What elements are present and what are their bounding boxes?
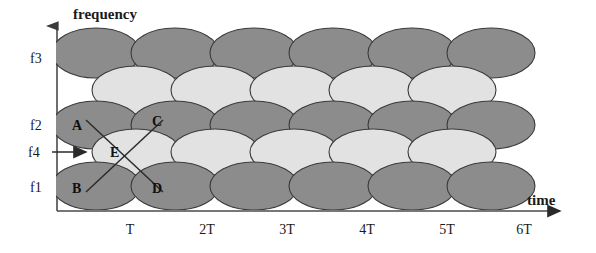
ellipse-grid [52, 28, 535, 210]
cell-label-B: B [72, 181, 81, 196]
cell-label-A: A [72, 118, 83, 133]
figure-canvas: A C E B D f3 f2 f4 f1 T 2T 3T 4T 5T 6T f… [0, 0, 596, 253]
cell-label-C: C [152, 114, 162, 129]
y-tick-f4: f4 [28, 145, 40, 160]
cell-f1-5 [368, 162, 456, 210]
x-tick-5: 5T [439, 222, 455, 237]
y-tick-f2: f2 [30, 118, 42, 133]
x-tick-2: 2T [199, 222, 215, 237]
frequency-axis-label: frequency [73, 6, 137, 22]
time-axis-label: time [527, 192, 556, 208]
y-tick-f3: f3 [30, 51, 42, 66]
cell-f1-6 [447, 162, 535, 210]
cell-f1-4 [289, 162, 377, 210]
x-tick-1: T [126, 222, 135, 237]
cell-label-E: E [110, 145, 119, 160]
cell-f1-2 [131, 162, 219, 210]
cell-f1-1 [52, 162, 140, 210]
x-tick-6: 6T [516, 222, 532, 237]
cell-label-D: D [152, 181, 162, 196]
x-tick-3: 3T [279, 222, 295, 237]
y-tick-f1: f1 [30, 180, 42, 195]
time-tick-labels: T 2T 3T 4T 5T 6T [126, 222, 533, 237]
frequency-tick-labels: f3 f2 f4 f1 [28, 51, 42, 195]
cell-f1-3 [210, 162, 298, 210]
x-tick-4: 4T [359, 222, 375, 237]
